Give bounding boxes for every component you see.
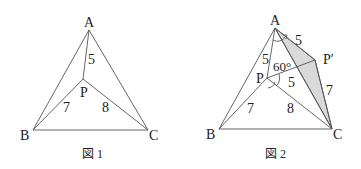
label-b: B [20,128,29,143]
length-pc: 8 [287,101,294,116]
label-p: P [256,71,264,86]
caption-figure-1: 図 1 [82,147,103,161]
length-ap2: 5 [295,33,302,48]
caption-figure-2: 図 2 [265,147,286,161]
label-b: B [206,127,215,142]
segment-pb [33,79,83,130]
length-pb: 7 [63,100,70,115]
label-c: C [333,127,342,142]
label-p-prime: P′ [323,52,334,67]
label-a: A [84,15,95,30]
length-pp2: 5 [288,75,295,90]
figure-1 [33,30,148,130]
length-pb: 7 [247,101,254,116]
diagram-canvas: A B C P 5 7 8 図 1 A B C P P′ 5 5 60° 5 7… [0,0,361,169]
angle-arc-60 [276,74,280,86]
angle-label: 60° [273,59,291,74]
label-c: C [149,128,158,143]
triangle-abc [33,30,148,130]
segment-pc [83,79,148,130]
length-pc: 8 [102,100,109,115]
label-a: A [270,13,281,28]
length-pa: 5 [88,52,95,67]
figure-1-labels: A B C P 5 7 8 図 1 [20,15,158,161]
figure-2 [219,28,332,129]
label-p: P [80,85,88,100]
length-p2c: 7 [326,83,333,98]
length-pa: 5 [262,52,269,67]
